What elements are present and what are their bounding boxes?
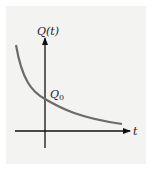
x-axis-label: t (133, 125, 138, 138)
intercept-main: Q (50, 88, 59, 101)
y-axis-label: Q(t) (37, 25, 59, 38)
intercept-subscript: 0 (59, 93, 64, 102)
intercept-label: Q0 (50, 88, 64, 102)
decay-chart: Q(t) t Q0 (0, 0, 152, 170)
decay-curve (16, 45, 122, 124)
